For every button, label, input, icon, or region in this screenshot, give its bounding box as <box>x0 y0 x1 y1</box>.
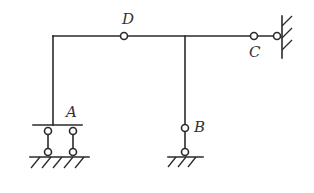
frame-drawing <box>0 0 314 193</box>
hinge-d-icon <box>121 33 128 40</box>
label-b: B <box>194 120 205 135</box>
hinge-c-icon <box>251 33 258 40</box>
support-a-icon <box>30 125 89 168</box>
hinge-b-icon <box>182 125 189 132</box>
label-c: C <box>249 45 260 60</box>
fixed-wall-icon <box>282 16 292 58</box>
label-a: A <box>66 105 77 120</box>
structural-frame-diagram: D C A B <box>0 0 314 193</box>
label-d: D <box>122 12 134 27</box>
frame-members <box>53 36 274 125</box>
wall-hinge-icon <box>274 33 281 40</box>
